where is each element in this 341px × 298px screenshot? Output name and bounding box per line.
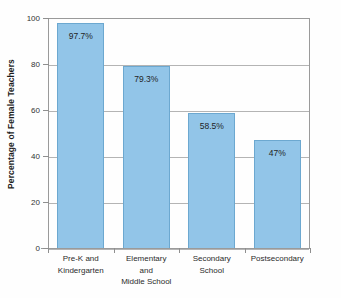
x-axis-label-line: and [114,265,180,277]
x-axis-line [41,248,311,249]
y-axis-tick-label: 20 [0,198,40,207]
y-axis-tick-label: 0 [0,244,40,253]
bar-value-label: 79.3% [124,74,169,84]
bar-chart: Percentage of Female Teachers 0204060801… [0,0,341,298]
x-axis-label-line: Secondary [179,253,245,265]
y-axis-tick-label: 60 [0,106,40,115]
y-axis-tick [43,18,49,19]
x-axis-category-label: Pre-K andKindergarten [48,253,114,276]
y-axis-tick [43,202,49,203]
x-axis-label-line: Elementary [114,253,180,265]
y-axis-title: Percentage of Female Teachers [0,0,22,248]
y-axis-tick [43,64,49,65]
x-axis-tick [310,248,311,253]
y-axis-tick-label: 80 [0,60,40,69]
y-axis-tick-label: 100 [0,14,40,23]
bar[interactable]: 47% [254,140,301,248]
bar[interactable]: 97.7% [57,23,104,248]
y-axis-title-text: Percentage of Female Teachers [6,59,16,189]
x-axis-label-line: Kindergarten [48,265,114,277]
y-axis-line [48,18,49,249]
bar-value-label: 58.5% [189,121,234,131]
bar[interactable]: 58.5% [188,113,235,248]
y-axis-tick-label: 40 [0,152,40,161]
x-axis-label-line: Postsecondary [245,253,311,265]
x-axis-category-label: ElementaryandMiddle School [114,253,180,288]
y-axis-tick [43,110,49,111]
x-axis-label-line: Middle School [114,276,180,288]
x-axis-category-label: SecondarySchool [179,253,245,276]
x-axis-category-label: Postsecondary [245,253,311,265]
x-axis-label-line: School [179,265,245,277]
x-axis-label-line: Pre-K and [48,253,114,265]
y-axis-tick [43,156,49,157]
bar-value-label: 47% [255,148,300,158]
bar[interactable]: 79.3% [123,66,170,248]
bar-value-label: 97.7% [58,31,103,41]
